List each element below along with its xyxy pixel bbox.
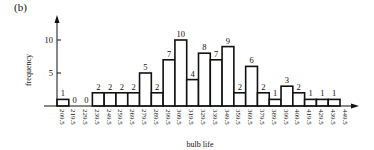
bar-value-label: 2 [108,82,112,92]
histogram-bar [281,86,293,106]
bar-value-label: 1 [61,88,65,98]
bar-value-label: 3 [285,75,289,85]
y-axis-label: frequency [24,54,33,86]
x-tick-label: 239.5 [93,109,101,125]
x-tick-label: 209.5 [58,109,66,125]
histogram-bar [151,93,163,106]
bar-value-label: 2 [120,82,124,92]
histogram-bar [57,99,69,106]
x-tick-label: 319.5 [187,109,195,125]
x-tick-label: 399.5 [282,109,290,125]
x-tick-label: 229.5 [81,109,89,125]
y-axis-arrow-icon [55,15,60,23]
bar-value-label: 2 [96,82,100,92]
x-tick-label: 379.5 [258,109,266,125]
histogram-bar [293,93,305,106]
bar-value-label: 6 [249,55,253,65]
bar-value-label: 9 [226,36,230,46]
histogram-bar [199,53,211,106]
histogram-bar [269,99,281,106]
x-tick-label: 349.5 [223,109,231,125]
y-ticks-group: 510 [45,35,62,78]
histogram-bar [316,99,328,106]
x-tick-label: 249.5 [105,109,113,125]
histogram-bar [187,80,199,106]
x-tick-label: 449.5 [341,109,349,125]
x-tick-label: 419.5 [305,109,313,125]
x-tick-label: 359.5 [234,109,242,125]
bar-value-label: 8 [202,42,206,52]
bar-value-label: 5 [143,62,147,72]
x-tick-label: 219.5 [69,109,77,125]
bar-value-label: 7 [167,49,171,59]
histogram-bar [128,93,140,106]
x-tick-label: 369.5 [246,109,254,125]
x-ticks-group: 209.5219.5229.5239.5249.5259.5269.5279.5… [58,109,349,125]
x-tick-label: 439.5 [329,109,337,125]
bar-value-label: 1 [332,88,336,98]
histogram-bar [305,99,317,106]
bar-value-label: 1 [320,88,324,98]
histogram-bar [210,60,222,106]
bar-value-label: 0 [73,95,77,105]
x-axis-label: bulb life [187,140,214,149]
bar-value-label: 7 [214,49,218,59]
histogram-bar [163,60,175,106]
x-tick-label: 269.5 [128,109,136,125]
histogram-bar [116,93,128,106]
histogram-bar [175,40,187,106]
histogram-bar [246,66,258,106]
x-axis-arrow-icon [351,104,359,109]
x-tick-label: 309.5 [175,109,183,125]
histogram-bar [104,93,116,106]
bar-value-label: 2 [261,82,265,92]
histogram-bar [92,93,104,106]
y-tick-label: 5 [49,68,53,78]
x-tick-label: 299.5 [164,109,172,125]
bars-group: 1002222527104879262132111 [57,29,340,106]
histogram-bar [257,93,269,106]
bar-value-label: 2 [155,82,159,92]
x-tick-label: 389.5 [270,109,278,125]
y-tick-label: 10 [45,35,54,45]
bar-value-label: 1 [273,88,277,98]
x-tick-label: 409.5 [293,109,301,125]
histogram-bar [328,99,340,106]
histogram-bar [140,73,152,106]
histogram-bar [234,93,246,106]
x-tick-label: 329.5 [199,109,207,125]
x-tick-label: 259.5 [116,109,124,125]
x-tick-label: 429.5 [317,109,325,125]
bar-value-label: 10 [177,29,186,39]
histogram-chart: 1002222527104879262132111 510 209.5219.5… [0,0,374,150]
bar-value-label: 1 [308,88,312,98]
bar-value-label: 2 [238,82,242,92]
bar-value-label: 2 [132,82,136,92]
bar-value-label: 4 [190,69,195,79]
bar-value-label: 2 [297,82,301,92]
histogram-bar [222,47,234,106]
bar-value-label: 0 [84,95,88,105]
x-tick-label: 289.5 [152,109,160,125]
x-tick-label: 279.5 [140,109,148,125]
x-tick-label: 339.5 [211,109,219,125]
